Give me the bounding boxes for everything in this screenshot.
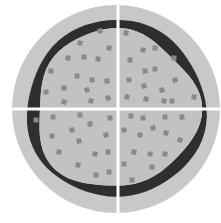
particle: [81, 54, 87, 60]
particle: [152, 45, 157, 50]
particle: [179, 114, 185, 120]
particle: [106, 169, 111, 174]
horizontal-divider: [0, 108, 221, 111]
particle: [104, 78, 110, 84]
particle: [129, 177, 134, 182]
particle: [140, 115, 145, 120]
particle: [65, 55, 71, 61]
disc-diagram: [0, 0, 221, 223]
particle: [128, 113, 133, 118]
particle: [142, 68, 147, 73]
particle: [69, 127, 75, 133]
particle: [77, 112, 82, 117]
particle: [128, 58, 133, 63]
particle: [87, 121, 93, 127]
diagram-canvas: [0, 0, 221, 223]
particle: [50, 114, 55, 119]
particle: [126, 77, 132, 83]
particle: [95, 56, 100, 61]
particle: [105, 149, 111, 155]
particle: [162, 151, 167, 156]
particle: [123, 30, 129, 36]
particle: [74, 73, 79, 78]
particle: [152, 66, 157, 71]
particle: [141, 83, 147, 89]
particle: [191, 94, 197, 100]
vertical-divider: [117, 0, 120, 223]
particle: [171, 55, 176, 60]
particle: [33, 117, 38, 122]
particle: [48, 68, 53, 73]
particle: [75, 162, 81, 168]
particle: [107, 115, 112, 120]
particle: [162, 114, 168, 120]
particle: [147, 151, 153, 157]
particle: [121, 161, 126, 166]
particle: [150, 165, 155, 170]
particle: [89, 77, 94, 82]
particle: [93, 172, 98, 177]
particle: [140, 47, 146, 53]
particle: [169, 98, 175, 104]
particle: [131, 149, 137, 155]
particle: [61, 85, 67, 91]
